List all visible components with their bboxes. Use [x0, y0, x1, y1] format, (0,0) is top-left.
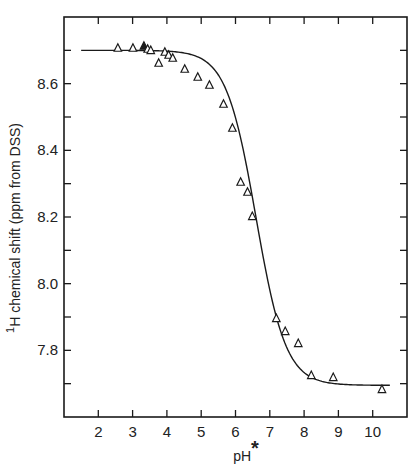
x-axis-title: pH* [233, 437, 259, 464]
x-axis-title-text: pH [233, 448, 251, 464]
data-point [281, 327, 289, 335]
data-point [229, 124, 237, 132]
data-point [308, 371, 316, 379]
fit-curve-layer [81, 50, 390, 385]
x-axis-title-superscript: * [251, 437, 259, 459]
x-tick-label: 7 [266, 423, 274, 440]
y-tick-label: 8.2 [37, 208, 58, 225]
data-points-layer [114, 42, 386, 393]
x-tick-label: 3 [128, 423, 136, 440]
x-tick-label: 10 [364, 423, 381, 440]
fit-curve [81, 50, 390, 385]
x-tick-label: 2 [94, 423, 102, 440]
y-tick-label: 8.0 [37, 275, 58, 292]
y-axis-title-text: H chemical shift (ppm from DSS) [7, 123, 23, 327]
x-tick-label: 6 [231, 423, 239, 440]
data-point [129, 44, 137, 52]
y-tick-label: 7.8 [37, 341, 58, 358]
data-point [237, 178, 245, 186]
data-point [244, 188, 252, 196]
data-point [220, 100, 228, 108]
data-point [181, 65, 189, 73]
data-point [378, 385, 386, 393]
data-point [155, 59, 163, 67]
data-point [194, 73, 202, 81]
x-tick-label: 4 [163, 423, 171, 440]
data-point [273, 314, 281, 322]
y-tick-label: 8.4 [37, 141, 58, 158]
y-axis: 7.88.08.28.48.6 [37, 50, 407, 383]
chart: 2345678910 7.88.08.28.48.6 pH* 1H chemic… [0, 0, 420, 473]
x-tick-label: 9 [334, 423, 342, 440]
y-tick-label: 8.6 [37, 75, 58, 92]
x-tick-label: 5 [197, 423, 205, 440]
x-tick-label: 8 [300, 423, 308, 440]
plot-border [64, 17, 407, 417]
data-point [114, 44, 122, 52]
data-point [330, 373, 338, 381]
x-axis: 2345678910 [94, 17, 381, 440]
y-axis-title: 1H chemical shift (ppm from DSS) [4, 123, 23, 333]
data-point [206, 81, 214, 89]
plot-frame [64, 17, 407, 417]
data-point [295, 339, 303, 347]
